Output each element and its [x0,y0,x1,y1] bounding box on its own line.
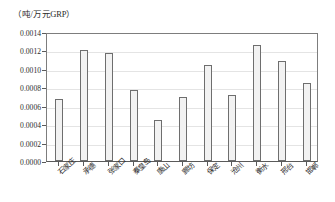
bar [105,53,113,161]
y-axis-tick-label: 0.0008 [1,84,41,93]
y-axis-tick-label: 0.0002 [1,139,41,148]
y-axis-tick-mark [42,162,46,163]
y-axis-unit-label: （吨/万元GRP） [13,7,75,19]
bar-slot [220,34,245,161]
bar-slot [96,34,121,161]
bar [204,65,212,161]
bar [303,83,311,161]
bar [253,45,261,161]
bar-slot [195,34,220,161]
bar-chart: （吨/万元GRP） 0.00000.00020.00040.00060.0008… [0,0,335,202]
bar-slot [47,34,72,161]
y-axis-tick-label: 0.0006 [1,102,41,111]
bar [130,90,138,161]
bar [278,61,286,161]
y-axis-tick-label: 0.0004 [1,121,41,130]
bar-slot [121,34,146,161]
y-axis-tick-label: 0.0010 [1,65,41,74]
bar-slot [245,34,270,161]
bar [80,50,88,161]
y-axis-tick-label: 0.0000 [1,158,41,167]
bar-slot [294,34,319,161]
bar-slot [72,34,97,161]
bar-slot [146,34,171,161]
bar [154,120,162,161]
bar [228,95,236,161]
bar [179,97,187,162]
bar [55,99,63,161]
plot-area [46,33,318,162]
y-axis-tick-label: 0.0012 [1,47,41,56]
bar-slot [171,34,196,161]
bar-slot [270,34,295,161]
y-axis-tick-label: 0.0014 [1,29,41,38]
